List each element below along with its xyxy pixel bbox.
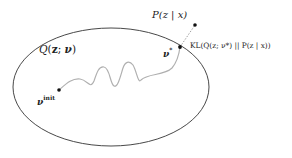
separator: ; [58,43,65,55]
close-paren: ) [72,43,76,55]
nu-symbol: ν [65,43,72,55]
optimization-path [59,47,180,90]
q-symbol: Q [39,43,48,55]
variational-family-label: Q(z; ν) [39,44,76,55]
posterior-point [193,23,197,27]
optimum-point-label: ν* [163,47,172,59]
diagram-canvas [0,0,292,158]
kl-divergence-label: KL(Q(z; ν*) || P(z | x)) [190,42,271,49]
posterior-label: P(z | x) [152,10,187,20]
init-point [57,88,61,92]
optimum-point [178,45,182,49]
init-point-label: νinit [37,95,55,107]
init-superscript: init [43,94,55,101]
star-superscript: * [169,46,172,53]
